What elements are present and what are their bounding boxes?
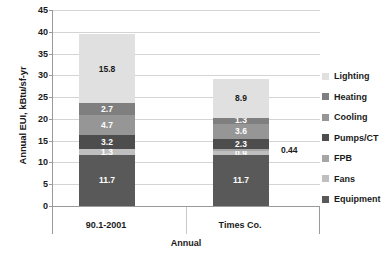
gridline-45 [53, 10, 320, 11]
bar-segment-value: 11.7 [233, 176, 249, 185]
legend-item-equipment[interactable]: Equipment [322, 189, 381, 210]
bar-segment-value: 4.7 [101, 121, 113, 130]
legend-label: FPB [334, 153, 352, 163]
y-tick-mark [49, 141, 53, 142]
bar-times-co[interactable]: 11.70.92.33.61.38.9 [213, 79, 269, 206]
bar-segment-value: 11.7 [99, 176, 115, 185]
y-tick-label: 10 [38, 157, 48, 167]
bar-90-1-2001[interactable]: 11.71.33.24.72.715.8 [79, 34, 135, 206]
legend-item-pumps-ct[interactable]: Pumps/CT [322, 128, 381, 149]
legend-swatch-icon [322, 175, 329, 182]
y-tick-label: 15 [38, 136, 48, 146]
y-tick-label: 30 [38, 70, 48, 80]
y-tick-label: 5 [43, 179, 48, 189]
annotation-0-44: 0.44 [281, 145, 298, 155]
y-tick-mark [49, 184, 53, 185]
y-tick-label: 25 [38, 92, 48, 102]
y-tick-mark [49, 162, 53, 163]
legend-item-lighting[interactable]: Lighting [322, 66, 381, 87]
bar-segment-cooling[interactable]: 4.7 [79, 115, 135, 135]
x-axis-edge [319, 207, 320, 234]
y-tick-mark [49, 54, 53, 55]
bar-segment-pumps-ct[interactable]: 2.3 [213, 139, 269, 149]
legend-label: Equipment [334, 194, 381, 204]
y-tick-mark [49, 119, 53, 120]
chart-legend: LightingHeatingCoolingPumps/CTFPBFansEqu… [322, 66, 381, 210]
bar-segment-value: 3.6 [235, 127, 247, 136]
x-axis-edge [52, 207, 53, 234]
x-tick-label: Times Co. [219, 220, 262, 230]
x-axis: 90.1-2001Times Co. [52, 206, 320, 234]
bar-segment-value: 2.3 [235, 140, 247, 149]
gridline-40 [53, 32, 320, 33]
bar-segment-lighting[interactable]: 8.9 [213, 79, 269, 118]
plot-area: 05101520253035404511.71.33.24.72.715.811… [52, 10, 320, 206]
legend-label: Cooling [334, 112, 368, 122]
legend-label: Pumps/CT [334, 133, 379, 143]
y-tick-label: 0 [43, 201, 48, 211]
y-tick-label: 20 [38, 114, 48, 124]
bar-segment-value: 15.8 [99, 65, 116, 74]
legend-swatch-icon [322, 196, 329, 203]
legend-swatch-icon [322, 73, 329, 80]
x-axis-title: Annual [52, 238, 320, 248]
bar-segment-cooling[interactable]: 3.6 [213, 124, 269, 140]
legend-label: Heating [334, 92, 367, 102]
legend-swatch-icon [322, 114, 329, 121]
bar-segment-equipment[interactable]: 11.7 [79, 155, 135, 206]
x-tick-label: 90.1-2001 [86, 220, 127, 230]
y-tick-label: 45 [38, 5, 48, 15]
bar-segment-pumps-ct[interactable]: 3.2 [79, 135, 135, 149]
legend-item-heating[interactable]: Heating [322, 87, 381, 108]
legend-label: Lighting [334, 71, 370, 81]
y-axis-title: Annual EUI, kBtu/sf-yr [17, 36, 28, 196]
y-tick-mark [49, 10, 53, 11]
legend-item-cooling[interactable]: Cooling [322, 107, 381, 128]
bar-segment-lighting[interactable]: 15.8 [79, 34, 135, 103]
bar-segment-heating[interactable]: 2.7 [79, 103, 135, 115]
legend-swatch-icon [322, 155, 329, 162]
y-tick-mark [49, 32, 53, 33]
stacked-bar-chart: Annual EUI, kBtu/sf-yr 05101520253035404… [0, 0, 392, 273]
bar-segment-equipment[interactable]: 11.7 [213, 155, 269, 206]
legend-item-fans[interactable]: Fans [322, 169, 381, 190]
y-tick-label: 40 [38, 27, 48, 37]
legend-item-fpb[interactable]: FPB [322, 148, 381, 169]
bar-segment-value: 3.2 [101, 138, 113, 147]
x-axis-separator [186, 207, 187, 234]
y-tick-label: 35 [38, 49, 48, 59]
legend-swatch-icon [322, 134, 329, 141]
bar-segment-value: 2.7 [101, 105, 113, 114]
y-tick-mark [49, 97, 53, 98]
legend-swatch-icon [322, 93, 329, 100]
bar-segment-value: 8.9 [235, 94, 247, 103]
legend-label: Fans [334, 174, 355, 184]
y-tick-mark [49, 75, 53, 76]
